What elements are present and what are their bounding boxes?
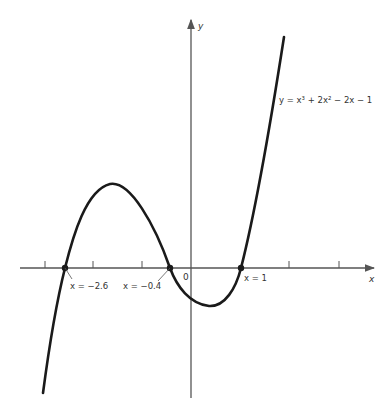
cubic-curve (43, 37, 284, 393)
cubic-graph: y x 0 y = x³ + 2x² − 2x − 1 x = −2.6 x =… (0, 0, 392, 416)
x-axis-label: x (368, 274, 375, 284)
x-ticks (45, 261, 339, 268)
root2-leader (158, 268, 170, 281)
root2-label: x = −0.4 (123, 281, 161, 291)
origin-label: 0 (183, 272, 189, 282)
equation-label: y = x³ + 2x² − 2x − 1 (279, 95, 372, 105)
root1-leader (65, 268, 72, 279)
y-axis-label: y (197, 21, 204, 31)
root-point-3 (238, 265, 244, 271)
root1-label: x = −2.6 (70, 281, 108, 291)
root3-label: x = 1 (244, 273, 267, 283)
